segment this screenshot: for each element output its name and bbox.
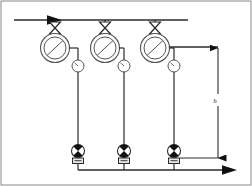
pressure-gauge-icon	[118, 60, 130, 72]
piping-schematic-diagram: h	[0, 0, 252, 186]
pressure-gauge-icon	[72, 60, 84, 72]
pump-base-icon	[169, 158, 180, 164]
pump-base-icon	[73, 158, 84, 164]
height-dimension-label: h	[213, 97, 217, 105]
filter-strainer-icon	[141, 34, 170, 63]
schematic-canvas: h	[0, 0, 252, 186]
filter-strainer-icon	[41, 34, 70, 63]
filter-strainer-icon	[91, 34, 120, 63]
pump-icon	[72, 144, 85, 157]
pump-icon	[118, 144, 131, 157]
pump-base-icon	[119, 158, 130, 164]
pump-icon	[168, 144, 181, 157]
pressure-gauge-icon	[168, 60, 180, 72]
